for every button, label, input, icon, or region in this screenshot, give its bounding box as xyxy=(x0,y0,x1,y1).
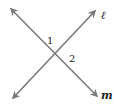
angle-2-label: 2 xyxy=(69,53,75,64)
intersecting-lines-diagram: 1 2 ℓ m xyxy=(0,0,114,107)
line-m-label: m xyxy=(101,89,113,102)
line-l-label: ℓ xyxy=(101,9,106,22)
angle-1-label: 1 xyxy=(47,35,53,46)
